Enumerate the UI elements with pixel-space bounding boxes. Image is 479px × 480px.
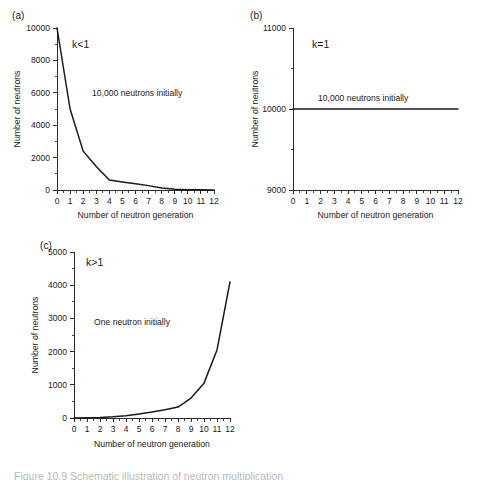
x-tick-label: 12 [209,196,219,206]
x-tick-label: 0 [291,196,296,206]
x-tick-label: 2 [318,196,323,206]
k-condition-label: k=1 [312,38,329,50]
x-tick-label: 4 [124,424,129,434]
x-tick-label: 10 [183,196,193,206]
x-tick-label: 5 [120,196,125,206]
x-tick-label: 9 [414,196,419,206]
y-tick-label: 4000 [31,120,50,130]
x-tick-label: 10 [426,196,436,206]
k-condition-label: k>1 [86,256,103,268]
y-tick-label: 8000 [31,55,50,65]
x-tick-label: 4 [346,196,351,206]
y-tick-label: 0 [45,185,50,195]
data-curve [74,282,230,418]
y-axis-title: Number of neutrons [250,70,260,147]
y-tick-label: 0 [62,413,67,423]
x-tick-label: 8 [176,424,181,434]
x-tick-label: 12 [453,196,463,206]
y-tick-label: 10000 [262,104,286,114]
x-tick-label: 11 [213,424,222,434]
y-tick-label: 9000 [267,185,286,195]
y-tick-label: 4000 [48,280,67,290]
y-tick-label: 6000 [31,88,50,98]
y-tick-label: 2000 [48,347,67,357]
x-tick-label: 1 [68,196,73,206]
x-tick-label: 1 [85,424,90,434]
panel-c: (c) 010002000300040005000012345678910111… [12,232,332,464]
x-tick-label: 2 [98,424,103,434]
figure-container: (a) 020004000600080001000001234567891011… [0,0,479,480]
y-tick-label: 5000 [48,247,67,257]
data-curve [57,28,214,190]
y-tick-label: 2000 [31,153,50,163]
x-tick-label: 7 [163,424,168,434]
x-tick-label: 3 [332,196,337,206]
x-axis-title: Number of neutron generation [78,210,194,220]
x-axis-title: Number of neutron generation [94,439,210,449]
plot-annotation: 10,000 neutrons initially [318,93,409,103]
x-tick-label: 1 [304,196,309,206]
x-tick-label: 6 [133,196,138,206]
k-condition-label: k<1 [72,38,89,50]
panel-a-plot: 02000400060008000100000123456789101112k<… [0,0,240,232]
y-axis-title: Number of neutrons [12,70,22,147]
x-tick-label: 11 [440,196,449,206]
plot-annotation: 10,000 neutrons initially [92,88,183,98]
y-tick-label: 3000 [48,313,67,323]
x-tick-label: 11 [197,196,206,206]
x-tick-label: 6 [150,424,155,434]
panel-a: (a) 020004000600080001000001234567891011… [0,0,240,232]
figure-caption: Figure 10.9 Schematic illustration of ne… [14,470,283,480]
x-tick-label: 9 [172,196,177,206]
x-tick-label: 10 [199,424,209,434]
x-tick-label: 3 [111,424,116,434]
panel-b-plot: 900010000110000123456789101112k=110,000 … [236,0,479,232]
panel-b: (b) 900010000110000123456789101112k=110,… [236,0,479,232]
x-tick-label: 7 [146,196,151,206]
x-tick-label: 7 [387,196,392,206]
panel-c-plot: 0100020003000400050000123456789101112k>1… [12,232,332,464]
x-tick-label: 6 [373,196,378,206]
x-tick-label: 9 [189,424,194,434]
y-tick-label: 10000 [26,23,50,33]
y-axis-title: Number of neutrons [30,296,40,373]
x-tick-label: 0 [55,196,60,206]
x-tick-label: 8 [159,196,164,206]
x-tick-label: 0 [72,424,77,434]
x-tick-label: 5 [137,424,142,434]
x-tick-label: 5 [359,196,364,206]
x-axis-title: Number of neutron generation [318,210,434,220]
plot-annotation: One neutron initially [94,317,171,327]
x-tick-label: 12 [225,424,235,434]
y-tick-label: 11000 [263,23,286,33]
y-tick-label: 1000 [48,380,67,390]
x-tick-label: 3 [94,196,99,206]
x-tick-label: 4 [107,196,112,206]
x-tick-label: 2 [81,196,86,206]
x-tick-label: 8 [401,196,406,206]
